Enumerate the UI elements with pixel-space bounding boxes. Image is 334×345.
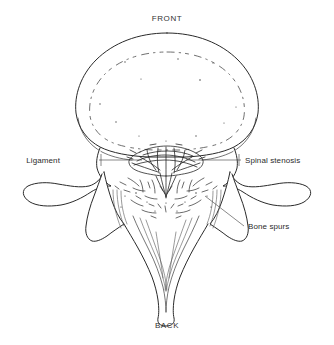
laminae-and-spinous-process — [113, 190, 221, 326]
orientation-label-back: BACK — [155, 321, 179, 330]
orientation-label-front: FRONT — [152, 14, 183, 23]
annotation-label-ligament: Ligament — [26, 156, 60, 165]
spinal-stenosis-diagram: FRONT BACK Ligament Spinal stenosis Bone… — [0, 0, 334, 345]
annotation-label-bone-spurs: Bone spurs — [248, 222, 289, 231]
annotation-label-spinal-stenosis: Spinal stenosis — [245, 156, 300, 165]
diagram-canvas: FRONT BACK Ligament Spinal stenosis Bone… — [0, 0, 334, 345]
